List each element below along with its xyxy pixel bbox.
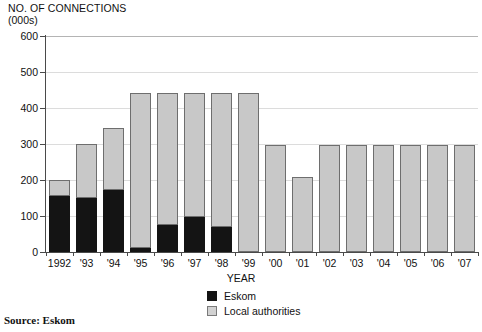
- chart-legend: Eskom Local authorities: [207, 289, 300, 319]
- bar-group[interactable]: [400, 36, 421, 252]
- x-axis-tick: [46, 252, 47, 256]
- bar-group[interactable]: [130, 36, 151, 252]
- x-axis-tick: [397, 252, 398, 256]
- bar-segment-local-authorities[interactable]: [184, 93, 205, 217]
- bar-group[interactable]: [211, 36, 232, 252]
- legend-swatch-eskom-icon: [207, 291, 217, 301]
- x-axis-tick-label: '93: [73, 258, 100, 269]
- y-axis-tick: [40, 216, 45, 217]
- y-axis-tick-label: 400: [0, 103, 38, 114]
- bar-segment-local-authorities[interactable]: [265, 145, 286, 252]
- chart-title: NO. OF CONNECTIONS: [8, 3, 126, 15]
- legend-item-eskom[interactable]: Eskom: [207, 289, 300, 303]
- bar-segment-local-authorities[interactable]: [238, 93, 259, 252]
- y-axis-tick: [40, 252, 45, 253]
- x-axis-tick-label: '07: [451, 258, 478, 269]
- bar-group[interactable]: [427, 36, 448, 252]
- x-axis-tick: [343, 252, 344, 256]
- x-axis-tick-label: '05: [397, 258, 424, 269]
- x-axis-tick: [208, 252, 209, 256]
- x-axis-title: YEAR: [0, 272, 482, 284]
- bar-segment-local-authorities[interactable]: [427, 145, 448, 252]
- x-axis-tick: [451, 252, 452, 256]
- bar-group[interactable]: [49, 36, 70, 252]
- bar-segment-local-authorities[interactable]: [76, 144, 97, 198]
- bar-segment-eskom[interactable]: [130, 248, 151, 252]
- x-axis-tick-label: '01: [289, 258, 316, 269]
- bar-segment-local-authorities[interactable]: [346, 145, 367, 252]
- bar-group[interactable]: [265, 36, 286, 252]
- bar-segment-eskom[interactable]: [49, 196, 70, 252]
- x-axis-tick-label: '94: [100, 258, 127, 269]
- bar-segment-local-authorities[interactable]: [454, 145, 475, 252]
- x-axis-tick-label: '02: [316, 258, 343, 269]
- bar-segment-eskom[interactable]: [157, 225, 178, 252]
- bar-group[interactable]: [184, 36, 205, 252]
- x-axis-tick-label: '06: [424, 258, 451, 269]
- x-axis-tick-label: '00: [262, 258, 289, 269]
- chart-subtitle-units: (000s): [8, 15, 38, 27]
- bar-group[interactable]: [373, 36, 394, 252]
- bar-segment-eskom[interactable]: [184, 217, 205, 252]
- x-axis-tick-label: 1992: [46, 258, 73, 269]
- plot-area: [46, 36, 478, 252]
- x-axis-tick-label: '97: [181, 258, 208, 269]
- bar-segment-local-authorities[interactable]: [49, 180, 70, 196]
- x-axis-tick: [235, 252, 236, 256]
- x-axis-tick: [73, 252, 74, 256]
- source-note: Source: Eskom: [4, 314, 75, 326]
- x-axis-tick-label: '04: [370, 258, 397, 269]
- x-axis-tick: [100, 252, 101, 256]
- legend-item-local-authorities[interactable]: Local authorities: [207, 304, 300, 318]
- x-axis-tick: [127, 252, 128, 256]
- bar-group[interactable]: [292, 36, 313, 252]
- x-axis-tick: [289, 252, 290, 256]
- x-axis-tick: [316, 252, 317, 256]
- bar-group[interactable]: [103, 36, 124, 252]
- bar-segment-eskom[interactable]: [211, 227, 232, 252]
- bar-group[interactable]: [157, 36, 178, 252]
- bar-group[interactable]: [238, 36, 259, 252]
- legend-label-local-authorities: Local authorities: [224, 306, 300, 317]
- x-axis-tick: [262, 252, 263, 256]
- y-axis-tick-label: 600: [0, 31, 38, 42]
- y-axis-tick: [40, 72, 45, 73]
- bar-segment-local-authorities[interactable]: [373, 145, 394, 252]
- bar-segment-eskom[interactable]: [103, 190, 124, 252]
- bar-group[interactable]: [454, 36, 475, 252]
- x-axis-tick-label: '99: [235, 258, 262, 269]
- bar-segment-local-authorities[interactable]: [130, 93, 151, 249]
- bar-group[interactable]: [76, 36, 97, 252]
- legend-label-eskom: Eskom: [224, 291, 256, 302]
- legend-swatch-local-authorities-icon: [207, 306, 217, 316]
- bar-segment-local-authorities[interactable]: [319, 145, 340, 252]
- x-axis-tick-label: '95: [127, 258, 154, 269]
- bar-segment-local-authorities[interactable]: [292, 177, 313, 252]
- y-axis-tick: [40, 180, 45, 181]
- y-axis-tick-label: 500: [0, 67, 38, 78]
- x-axis-tick: [154, 252, 155, 256]
- bar-group[interactable]: [319, 36, 340, 252]
- x-axis-tick: [370, 252, 371, 256]
- y-axis-tick: [40, 36, 45, 37]
- x-axis-tick: [181, 252, 182, 256]
- y-axis-tick-label: 0: [0, 247, 38, 258]
- x-axis-tick: [424, 252, 425, 256]
- y-axis-tick-label: 200: [0, 175, 38, 186]
- y-axis-tick-label: 100: [0, 211, 38, 222]
- x-axis-tick: [478, 252, 479, 256]
- bar-segment-local-authorities[interactable]: [400, 145, 421, 252]
- bar-segment-local-authorities[interactable]: [103, 128, 124, 190]
- y-axis-tick: [40, 108, 45, 109]
- bar-segment-local-authorities[interactable]: [211, 93, 232, 227]
- x-axis-tick-label: '03: [343, 258, 370, 269]
- y-axis-tick-label: 300: [0, 139, 38, 150]
- x-axis-tick-label: '96: [154, 258, 181, 269]
- y-axis-tick: [40, 144, 45, 145]
- bar-segment-eskom[interactable]: [76, 198, 97, 252]
- bar-segment-local-authorities[interactable]: [157, 93, 178, 225]
- bar-group[interactable]: [346, 36, 367, 252]
- x-axis-tick-label: '98: [208, 258, 235, 269]
